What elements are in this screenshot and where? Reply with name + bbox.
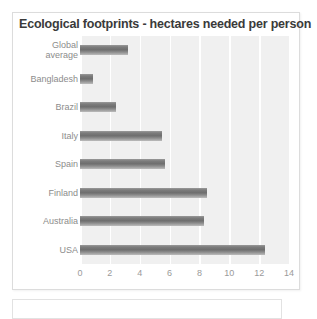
x-tick-label: 2 bbox=[107, 268, 112, 278]
x-tick-label: 4 bbox=[137, 268, 142, 278]
category-label: USA bbox=[13, 245, 78, 255]
category-label: Globalaverage bbox=[13, 40, 78, 60]
category-axis: GlobalaverageBangladeshBrazilItalySpainF… bbox=[13, 36, 80, 264]
bar-row bbox=[80, 236, 289, 265]
category-label: Spain bbox=[13, 159, 78, 169]
bar-row bbox=[80, 179, 289, 208]
bar bbox=[80, 245, 265, 255]
bar bbox=[80, 74, 93, 84]
category-label: Finland bbox=[13, 188, 78, 198]
secondary-panel bbox=[12, 299, 282, 319]
x-tick-label: 12 bbox=[254, 268, 264, 278]
x-tick-label: 6 bbox=[167, 268, 172, 278]
bar-row bbox=[80, 36, 289, 65]
bar-row bbox=[80, 122, 289, 151]
bar-row bbox=[80, 150, 289, 179]
chart-panel: Ecological footprints - hectares needed … bbox=[12, 12, 300, 290]
x-tick-label: 0 bbox=[77, 268, 82, 278]
category-label: Brazil bbox=[13, 102, 78, 112]
bar-row bbox=[80, 207, 289, 236]
x-tick-label: 8 bbox=[197, 268, 202, 278]
bar bbox=[80, 216, 204, 226]
bar bbox=[80, 188, 207, 198]
chart-title: Ecological footprints - hectares needed … bbox=[19, 17, 295, 31]
bar bbox=[80, 102, 116, 112]
bar bbox=[80, 131, 162, 141]
bar-row bbox=[80, 93, 289, 122]
plot-area bbox=[80, 36, 289, 264]
category-label: Bangladesh bbox=[13, 74, 78, 84]
x-axis: 02468101214 bbox=[80, 264, 289, 286]
category-label: Italy bbox=[13, 131, 78, 141]
bar bbox=[80, 159, 165, 169]
bar-row bbox=[80, 65, 289, 94]
bar bbox=[80, 45, 128, 55]
x-tick-label: 10 bbox=[224, 268, 234, 278]
plot-region: GlobalaverageBangladeshBrazilItalySpainF… bbox=[13, 36, 299, 289]
category-label: Australia bbox=[13, 216, 78, 226]
x-tick-label: 14 bbox=[284, 268, 294, 278]
